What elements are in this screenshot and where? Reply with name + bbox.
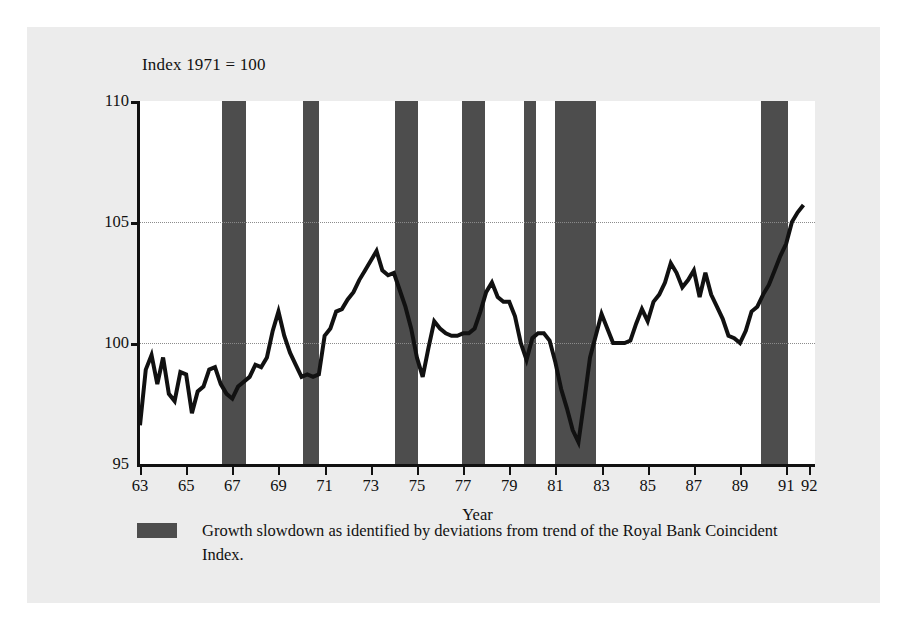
- legend-label-growth-slowdown: Growth slowdown as identified by deviati…: [202, 519, 817, 567]
- x-axis-tick-label: 71: [316, 476, 333, 496]
- x-axis-tick-mark: [417, 464, 419, 475]
- x-axis-tick-mark: [694, 464, 696, 475]
- y-axis-tick-label: 100: [104, 333, 129, 353]
- x-axis-tick-mark: [602, 464, 604, 475]
- x-axis-tick-mark: [555, 464, 557, 475]
- x-axis-tick-label: 67: [224, 476, 241, 496]
- x-axis-tick-mark: [463, 464, 465, 475]
- y-axis-tick-label: 95: [113, 454, 130, 474]
- x-axis-tick-label: 92: [801, 476, 818, 496]
- x-axis-tick-mark: [786, 464, 788, 475]
- x-axis-tick-label: 77: [455, 476, 472, 496]
- x-axis-tick-mark: [809, 464, 811, 475]
- y-axis-tick-label: 110: [105, 91, 129, 111]
- y-axis-tick-label: 105: [104, 212, 129, 232]
- x-axis-tick-label: 87: [686, 476, 703, 496]
- y-axis-tick-mark: [131, 101, 140, 104]
- x-axis-tick-label: 63: [132, 476, 149, 496]
- x-axis-tick-label: 83: [593, 476, 610, 496]
- x-axis-tick-label: 79: [501, 476, 518, 496]
- chart-title: Index 1971 = 100: [142, 55, 266, 75]
- plot-area: 9510010511063656769717375777981838587899…: [137, 101, 815, 467]
- x-axis-tick-mark: [140, 464, 142, 475]
- x-axis-tick-mark: [371, 464, 373, 475]
- x-axis-tick-mark: [278, 464, 280, 475]
- x-axis-tick-mark: [232, 464, 234, 475]
- x-axis-tick-label: 89: [732, 476, 749, 496]
- x-axis-tick-label: 69: [270, 476, 287, 496]
- x-axis-tick-mark: [509, 464, 511, 475]
- x-axis-tick-mark: [325, 464, 327, 475]
- x-axis-tick-label: 91: [778, 476, 795, 496]
- y-axis-tick-mark: [131, 343, 140, 346]
- x-axis-tick-mark: [186, 464, 188, 475]
- coincident-index-line: [140, 205, 803, 442]
- chart-legend: Growth slowdown as identified by deviati…: [137, 519, 837, 567]
- x-axis-tick-label: 65: [178, 476, 195, 496]
- x-axis-tick-label: 85: [639, 476, 656, 496]
- x-axis-tick-mark: [648, 464, 650, 475]
- series-line-chart: [140, 101, 815, 464]
- x-axis-tick-label: 73: [363, 476, 380, 496]
- x-axis-tick-label: 81: [547, 476, 564, 496]
- y-axis-tick-mark: [131, 222, 140, 225]
- x-axis-tick-label: 75: [409, 476, 426, 496]
- legend-swatch-growth-slowdown: [137, 523, 177, 538]
- x-axis-tick-mark: [740, 464, 742, 475]
- figure-panel: Index 1971 = 100 95100105110636567697173…: [27, 27, 880, 603]
